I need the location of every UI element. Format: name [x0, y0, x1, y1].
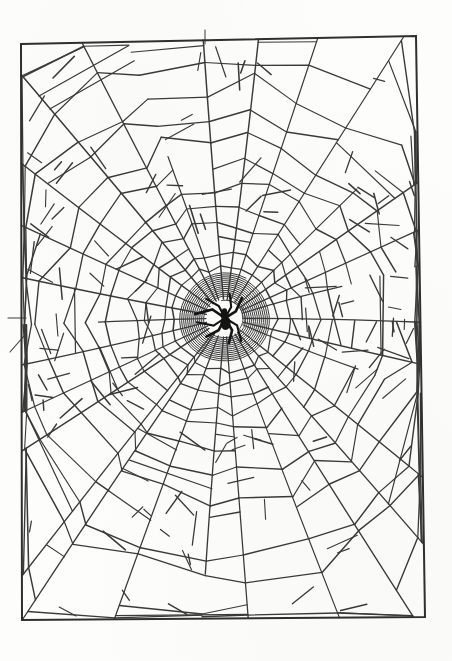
spider-web-drawing — [0, 0, 452, 661]
illustration-canvas: Spider Web — [0, 0, 452, 661]
